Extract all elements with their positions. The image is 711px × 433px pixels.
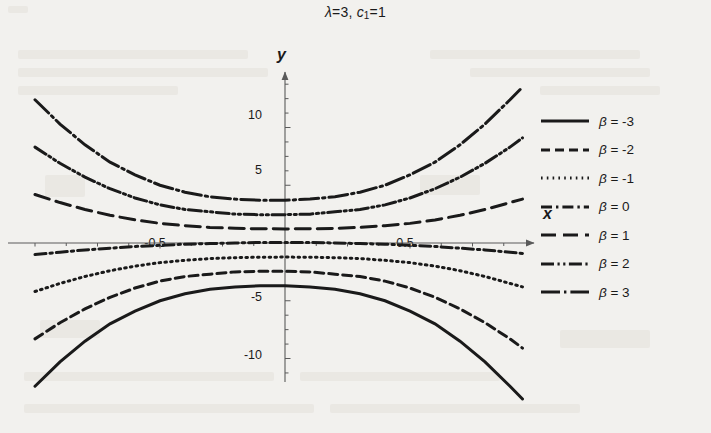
figure-plot: λ=3, c1=1 y x 10 5 -5 -10 -0.5 0.5 β = -… bbox=[0, 0, 711, 433]
legend-swatch-dashdotdot bbox=[540, 258, 590, 270]
curve-beta--3 bbox=[35, 286, 523, 399]
legend-swatch-dashed bbox=[540, 144, 590, 156]
legend-item-0[interactable]: β = -3 bbox=[540, 107, 705, 136]
curve-beta-2 bbox=[35, 138, 523, 215]
legend-item-1[interactable]: β = -2 bbox=[540, 136, 705, 165]
legend-label: β = 2 bbox=[599, 256, 630, 271]
legend-label: β = -3 bbox=[599, 114, 634, 129]
axes bbox=[8, 72, 534, 382]
legend: β = -3β = -2β = -1β = 0β = 1β = 2β = 3 bbox=[540, 107, 705, 307]
legend-swatch-longdash bbox=[540, 229, 590, 241]
legend-item-2[interactable]: β = -1 bbox=[540, 164, 705, 193]
legend-item-5[interactable]: β = 2 bbox=[540, 250, 705, 279]
legend-swatch-solid bbox=[540, 115, 590, 127]
curve-beta--2 bbox=[35, 271, 523, 348]
axis-ticks bbox=[35, 84, 504, 373]
legend-swatch-longdashdot bbox=[540, 286, 590, 298]
legend-label: β = 1 bbox=[599, 228, 630, 243]
legend-swatch-dotted bbox=[540, 172, 590, 184]
legend-label: β = 3 bbox=[599, 285, 630, 300]
legend-label: β = -2 bbox=[599, 142, 634, 157]
legend-item-3[interactable]: β = 0 bbox=[540, 193, 705, 222]
curve-beta-3 bbox=[35, 87, 523, 200]
curve-beta-0 bbox=[35, 242, 523, 254]
legend-label: β = -1 bbox=[599, 171, 634, 186]
legend-label: β = 0 bbox=[599, 199, 630, 214]
legend-item-4[interactable]: β = 1 bbox=[540, 221, 705, 250]
legend-item-6[interactable]: β = 3 bbox=[540, 278, 705, 307]
legend-swatch-dashdot bbox=[540, 201, 590, 213]
